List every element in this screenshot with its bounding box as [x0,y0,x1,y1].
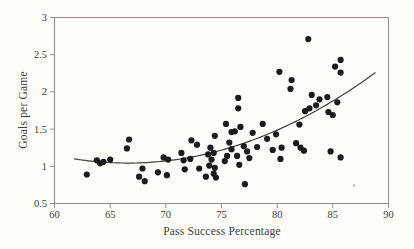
data-point [338,57,344,63]
data-point [136,174,142,180]
data-point [208,157,214,163]
x-tick-label: 75 [216,209,227,220]
data-point [338,70,344,76]
data-point [188,137,194,143]
data-point [155,169,161,175]
data-point [126,136,132,142]
data-point [270,147,276,153]
data-point [181,157,187,163]
y-tick-label: 2.5 [34,49,47,60]
data-point [107,157,113,163]
data-point [234,153,240,159]
data-point [224,153,230,159]
data-point [279,145,285,151]
data-point [164,172,170,178]
y-tick-label: 2 [42,86,47,97]
data-point [264,136,270,142]
data-point [244,148,250,154]
x-tick-label: 70 [161,209,172,220]
x-tick-label: 60 [49,209,60,220]
data-point [196,165,202,171]
data-point [287,86,293,92]
data-point [84,171,90,177]
data-point [296,122,302,128]
data-point [165,157,171,163]
x-tick-label: 65 [105,209,116,220]
y-axis-title: Goals per Game [17,71,29,149]
data-point [254,144,260,150]
data-point [205,151,211,157]
data-point [242,181,248,187]
y-tick-label: 1.5 [34,124,47,135]
data-point [212,165,218,171]
data-point [328,148,334,154]
data-point [203,174,209,180]
data-point [301,148,307,154]
data-point [194,142,200,148]
data-point [228,146,234,152]
data-point [207,145,213,151]
data-point [276,69,282,75]
data-point [289,77,295,83]
data-point [293,140,299,146]
data-point [187,156,193,162]
data-point [277,156,283,162]
data-point [100,159,106,165]
data-point [236,162,242,168]
data-point [306,105,312,111]
data-point [309,92,315,98]
x-tick-label: 85 [328,209,339,220]
x-tick-label: 80 [272,209,283,220]
y-tick-label: 3 [42,12,47,23]
data-point [235,105,241,111]
data-point [250,130,256,136]
data-point [139,165,145,171]
data-point [273,131,279,137]
data-point [246,155,252,161]
data-point [212,133,218,139]
data-point [237,124,243,130]
scan-artifact-speck [353,184,356,187]
data-point [226,139,232,145]
data-point [324,94,330,100]
plot-frame [55,18,389,204]
y-tick-label: 0.5 [34,198,47,209]
data-point [260,121,266,127]
x-axis-title: Pass Success Percentage [163,225,281,237]
scatter-plot-canvas: 606570758085900.511.522.53 [0,0,414,249]
data-point [213,174,219,180]
data-point [182,166,188,172]
data-point [235,95,241,101]
data-point [313,102,319,108]
data-point [334,99,340,105]
data-point [316,96,322,102]
data-point [332,64,338,70]
data-point [330,112,336,118]
y-tick-label: 1 [42,161,47,172]
data-point [223,121,229,127]
data-point [142,178,148,184]
data-point [232,128,238,134]
data-point [124,145,130,151]
scatter-figure: 606570758085900.511.522.53 Goals per Gam… [0,0,414,249]
data-point [206,163,212,169]
data-point [338,154,344,160]
data-point [211,150,217,156]
data-point [241,143,247,149]
data-point [305,36,311,42]
x-tick-label: 90 [383,209,394,220]
data-point [178,150,184,156]
